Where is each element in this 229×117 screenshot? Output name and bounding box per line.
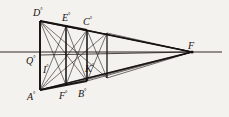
label-K: K° [85,63,94,74]
diagonal-2 [40,26,66,90]
label-F-vanishing-point: F [188,40,194,51]
label-E: E° [62,12,71,23]
label-D: D° [33,7,43,18]
diagonal-0 [40,21,66,85]
label-Q: Q° [26,55,36,66]
label-F-base: F° [59,90,68,101]
label-A: A° [27,91,36,102]
label-B: B° [78,88,87,99]
diagonal-5 [40,21,107,78]
label-C: C° [83,16,92,27]
perspective-diagram: D° E° C° F Q° I° K° A° F° B° [0,0,229,117]
label-I: I° [43,64,49,75]
